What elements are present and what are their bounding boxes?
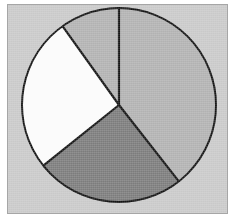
chart-panel xyxy=(7,4,228,214)
pie-chart xyxy=(21,7,217,203)
pie-body xyxy=(21,7,217,203)
